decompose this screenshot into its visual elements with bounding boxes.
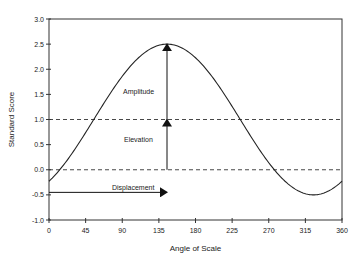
amplitude-label: Amplitude: [123, 88, 154, 96]
x-tick-label: 360: [336, 227, 348, 234]
y-axis: -1.0-0.50.00.51.01.52.02.53.0: [32, 16, 51, 224]
y-tick-label: 0.0: [34, 166, 44, 173]
x-tick-label: 270: [263, 227, 275, 234]
x-tick-label: 45: [82, 227, 90, 234]
y-tick-label: 1.0: [34, 116, 44, 123]
y-tick-label: 3.0: [34, 16, 44, 23]
y-tick-label: 0.5: [34, 141, 44, 148]
x-axis-title: Angle of Scale: [170, 244, 222, 253]
elevation-label: Elevation: [124, 136, 153, 143]
x-tick-label: 225: [226, 227, 238, 234]
y-tick-label: -0.5: [32, 191, 44, 198]
x-tick-label: 180: [190, 227, 202, 234]
x-tick-label: 315: [300, 227, 312, 234]
y-tick-label: 2.0: [34, 66, 44, 73]
y-axis-title: Standard Score: [7, 91, 16, 147]
x-tick-label: 135: [153, 227, 165, 234]
x-tick-label: 0: [47, 227, 51, 234]
x-tick-label: 90: [118, 227, 126, 234]
y-tick-label: 1.5: [34, 91, 44, 98]
y-tick-label: -1.0: [32, 217, 44, 224]
displacement-label: Displacement: [112, 184, 154, 192]
chart-canvas: -1.0-0.50.00.51.01.52.02.53.0 0459013518…: [0, 0, 363, 265]
y-tick-label: 2.5: [34, 41, 44, 48]
